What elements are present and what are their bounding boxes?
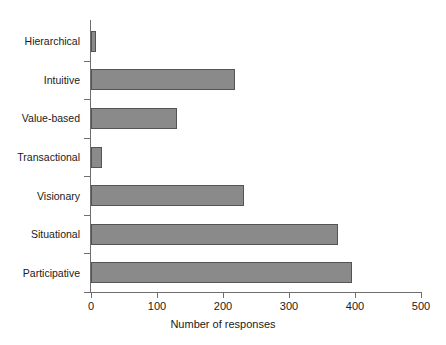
bar-transactional [91, 147, 102, 168]
x-axis-tick-label: 0 [71, 300, 111, 313]
y-axis-tick [84, 61, 91, 62]
y-axis-tick [84, 253, 91, 254]
y-axis-label-transactional: Transactional [17, 151, 80, 163]
x-axis-tick-label: 100 [137, 300, 177, 313]
bar-intuitive [91, 69, 235, 90]
x-axis-tick-label: 400 [335, 300, 375, 313]
x-axis-tick [289, 292, 290, 298]
x-axis-tick [223, 292, 224, 298]
y-axis-tick [84, 215, 91, 216]
y-axis-label-participative: Participative [23, 267, 80, 279]
x-axis-tick-label: 300 [269, 300, 309, 313]
bar-value-based [91, 108, 177, 129]
y-axis-tick [84, 99, 91, 100]
x-axis-tick-label: 500 [401, 300, 441, 313]
x-axis-line [91, 292, 422, 293]
y-axis-tick [84, 176, 91, 177]
y-axis-label-value-based: Value-based [22, 112, 80, 124]
x-axis-tick [355, 292, 356, 298]
y-axis-label-hierarchical: Hierarchical [25, 35, 80, 47]
bar-chart: HierarchicalIntuitiveValue-basedTransact… [0, 0, 446, 345]
bar-participative [91, 262, 352, 283]
y-axis-label-visionary: Visionary [37, 190, 80, 202]
bar-visionary [91, 185, 244, 206]
x-axis-title: Number of responses [0, 318, 446, 330]
y-axis-tick [84, 292, 91, 293]
x-axis-tick-label: 200 [203, 300, 243, 313]
x-axis-tick [421, 292, 422, 298]
x-axis-tick [157, 292, 158, 298]
y-axis-label-intuitive: Intuitive [44, 74, 80, 86]
cropped-title-residue [0, 0, 446, 8]
y-axis-label-situational: Situational [31, 228, 80, 240]
x-axis-tick [91, 292, 92, 298]
y-axis-tick [84, 138, 91, 139]
bar-situational [91, 224, 338, 245]
bar-hierarchical [91, 31, 96, 52]
